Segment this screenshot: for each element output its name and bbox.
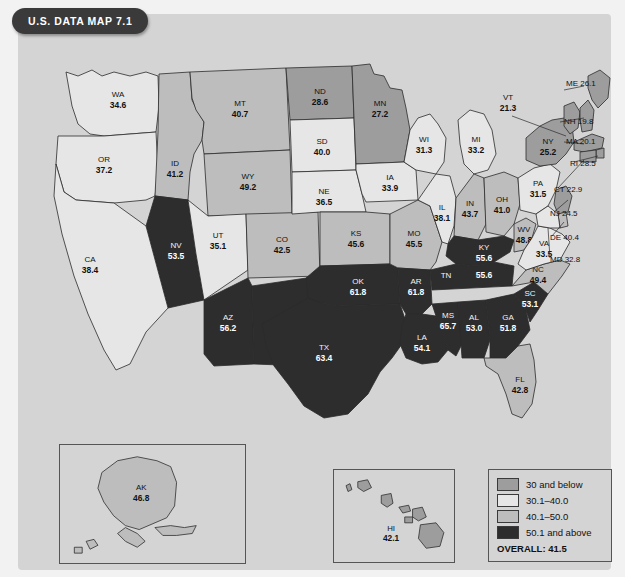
state-label-WI: WI bbox=[419, 135, 429, 144]
state-value-TN: 55.6 bbox=[476, 270, 493, 280]
state-label-OR: OR bbox=[98, 155, 110, 164]
state-label-PA: PA bbox=[533, 179, 544, 188]
state-KS[interactable]: KS 45.6 bbox=[320, 212, 390, 266]
state-label-KS: KS bbox=[351, 229, 362, 238]
state-SD[interactable]: SD 40.0 bbox=[290, 118, 356, 172]
state-label-MI: MI bbox=[472, 135, 481, 144]
callout-MD: MD 32.8 bbox=[550, 255, 581, 264]
state-value-AL: 53.0 bbox=[466, 323, 483, 333]
state-MN[interactable]: MN 27.2 bbox=[352, 64, 410, 164]
state-value-LA: 54.1 bbox=[414, 343, 431, 353]
state-label-OH: OH bbox=[496, 195, 508, 204]
state-label-MO: MO bbox=[408, 229, 421, 238]
state-value-MS: 65.7 bbox=[440, 321, 457, 331]
state-NH[interactable] bbox=[580, 100, 594, 132]
state-WA[interactable]: WA 34.6 bbox=[66, 70, 159, 136]
state-label-SD: SD bbox=[316, 137, 327, 146]
state-MT[interactable]: MT 40.7 bbox=[190, 68, 290, 154]
state-label-AZ: AZ bbox=[223, 313, 233, 322]
state-TX[interactable]: TX 63.4 bbox=[262, 298, 406, 418]
callout-DE: DE 40.4 bbox=[550, 233, 579, 242]
state-value-NC: 49.4 bbox=[530, 275, 547, 285]
state-label-ND: ND bbox=[314, 87, 326, 96]
state-label-MS: MS bbox=[442, 311, 454, 320]
state-value-OH: 41.0 bbox=[494, 205, 511, 215]
state-WI[interactable]: WI 31.3 bbox=[404, 114, 446, 174]
callout-ME: ME 26.1 bbox=[566, 79, 596, 88]
state-label-WA: WA bbox=[112, 90, 125, 99]
state-label-GA: GA bbox=[502, 313, 514, 322]
state-value-CA: 38.4 bbox=[82, 265, 99, 275]
state-label-MN: MN bbox=[374, 99, 387, 108]
state-value-IL: 38.1 bbox=[434, 213, 451, 223]
state-label-WV: WV bbox=[518, 225, 532, 234]
state-value-WA: 34.6 bbox=[110, 100, 127, 110]
alaska-inset: AK 46.8 bbox=[59, 444, 246, 564]
legend-label: 30.1–40.0 bbox=[526, 495, 568, 506]
callout-RI: RI 28.5 bbox=[570, 159, 596, 168]
state-MI[interactable]: MI 33.2 bbox=[458, 110, 496, 174]
state-IN[interactable]: IN 43.7 bbox=[454, 174, 486, 240]
state-value-AR: 61.8 bbox=[408, 287, 425, 297]
legend-row: 40.1–50.0 bbox=[497, 508, 603, 524]
state-label-OK: OK bbox=[352, 277, 364, 286]
legend-row: 30 and below bbox=[497, 476, 603, 492]
state-value-WI: 31.3 bbox=[416, 145, 433, 155]
state-value-HI: 42.1 bbox=[383, 533, 400, 543]
state-value-KY: 55.6 bbox=[476, 253, 493, 263]
legend-swatch bbox=[497, 510, 519, 523]
state-label-AL: AL bbox=[469, 313, 479, 322]
legend-label: 50.1 and above bbox=[526, 527, 592, 538]
state-label-AK: AK bbox=[136, 483, 147, 492]
state-value-IA: 33.9 bbox=[382, 183, 399, 193]
state-value-FL: 42.8 bbox=[512, 385, 529, 395]
state-value-TX: 63.4 bbox=[316, 353, 333, 363]
state-value-CO: 42.5 bbox=[274, 245, 291, 255]
state-value-WY: 49.2 bbox=[240, 182, 257, 192]
state-value-AK: 46.8 bbox=[133, 493, 150, 503]
state-TN[interactable]: TN 55.6 bbox=[430, 262, 514, 290]
callout-CT: CT 22.9 bbox=[554, 185, 583, 194]
state-ME[interactable] bbox=[588, 70, 610, 108]
state-label-NV: NV bbox=[170, 241, 182, 250]
state-OR[interactable]: OR 37.2 bbox=[56, 132, 158, 203]
state-label-CA: CA bbox=[84, 255, 96, 264]
state-label-KY: KY bbox=[479, 243, 490, 252]
state-value-PA: 31.5 bbox=[530, 189, 547, 199]
state-AL[interactable]: AL 53.0 bbox=[458, 300, 490, 358]
state-label-FL: FL bbox=[515, 375, 525, 384]
callout-NH: NH 19.8 bbox=[564, 117, 594, 126]
state-value-MT: 40.7 bbox=[232, 109, 249, 119]
state-WY[interactable]: WY 49.2 bbox=[204, 150, 292, 216]
alaska-svg: AK 46.8 bbox=[60, 445, 243, 561]
state-label-MT: MT bbox=[234, 99, 246, 108]
state-label-ID: ID bbox=[171, 159, 179, 168]
state-CO[interactable]: CO 42.5 bbox=[246, 212, 320, 278]
state-label-UT: UT bbox=[213, 231, 224, 240]
state-label-IN: IN bbox=[466, 199, 474, 208]
callout-MA: MA 20.1 bbox=[566, 137, 596, 146]
state-AR[interactable]: AR 61.8 bbox=[398, 268, 432, 314]
state-label-VT: VT bbox=[503, 93, 513, 102]
state-label-VA: VA bbox=[539, 239, 550, 248]
state-NE[interactable]: NE 36.5 bbox=[292, 170, 366, 214]
state-label-AR: AR bbox=[410, 277, 421, 286]
state-label-TX: TX bbox=[319, 343, 330, 352]
hawaii-inset: HI 42.1 bbox=[333, 469, 455, 563]
state-value-GA: 51.8 bbox=[500, 323, 517, 333]
state-value-IN: 43.7 bbox=[462, 209, 479, 219]
state-OK[interactable]: OK 61.8 bbox=[306, 264, 400, 306]
state-value-OK: 61.8 bbox=[350, 287, 367, 297]
state-value-OR: 37.2 bbox=[96, 165, 113, 175]
state-IA[interactable]: IA 33.9 bbox=[356, 162, 418, 202]
map-panel: WA 34.6 OR 37.2 ID 41.2 MT 40.7 WY bbox=[18, 14, 611, 570]
state-value-KS: 45.6 bbox=[348, 239, 365, 249]
state-value-MO: 45.5 bbox=[406, 239, 423, 249]
state-KY[interactable]: KY 55.6 bbox=[446, 236, 514, 266]
callout-NJ: NJ 24.5 bbox=[550, 209, 578, 218]
hawaii-svg: HI 42.1 bbox=[334, 470, 452, 560]
state-label-HI: HI bbox=[387, 524, 395, 533]
state-ND[interactable]: ND 28.6 bbox=[286, 66, 354, 120]
state-value-NE: 36.5 bbox=[316, 197, 333, 207]
legend-label: 30 and below bbox=[526, 479, 583, 490]
